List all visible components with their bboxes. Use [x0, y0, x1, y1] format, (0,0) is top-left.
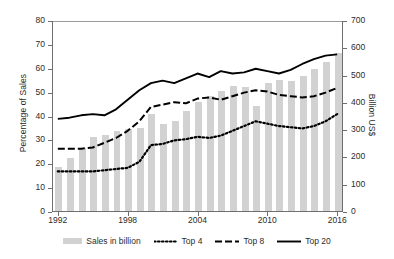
legend-label: Top 4	[182, 236, 203, 246]
y-tick-label-80: 80	[23, 15, 45, 25]
x-tick-mark-2016	[337, 212, 338, 216]
y-axis-title-right: Billion US$	[367, 45, 377, 185]
y2-tick-label-600: 600	[351, 42, 377, 52]
y-tick-label-60: 60	[23, 63, 45, 73]
x-tick-mark-1998	[128, 212, 129, 216]
y-tick-label-70: 70	[23, 39, 45, 49]
y-tick-mark-0	[48, 212, 52, 213]
legend-item-top-20: Top 20	[277, 236, 331, 246]
y2-tick-mark-400	[343, 103, 347, 104]
y2-tick-label-500: 500	[351, 70, 377, 80]
y2-tick-mark-300	[343, 130, 347, 131]
legend-label: Top 8	[243, 236, 264, 246]
legend-item-sales-in-billion: Sales in billion	[63, 236, 140, 246]
y2-tick-label-100: 100	[351, 179, 377, 189]
x-tick-label-1992: 1992	[38, 215, 78, 225]
y2-tick-mark-100	[343, 185, 347, 186]
legend-label: Sales in billion	[86, 236, 140, 246]
y2-tick-mark-600	[343, 48, 347, 49]
legend-swatch-solid-line-icon	[277, 238, 301, 245]
legend-item-top-4: Top 4	[154, 236, 203, 246]
line-top-20	[58, 54, 337, 118]
y2-tick-mark-500	[343, 76, 347, 77]
legend-swatch-dotted-line-icon	[154, 238, 178, 245]
x-tick-mark-2004	[198, 212, 199, 216]
x-tick-label-1998: 1998	[108, 215, 148, 225]
line-top-8	[58, 88, 337, 149]
y2-tick-label-400: 400	[351, 97, 377, 107]
y2-tick-mark-700	[343, 21, 347, 22]
y-tick-label-40: 40	[23, 111, 45, 121]
legend-item-top-8: Top 8	[215, 236, 264, 246]
y2-tick-mark-0	[343, 212, 347, 213]
legend-label: Top 20	[305, 236, 331, 246]
chart-figure: Percentage of Sales Billion US$ 01020304…	[0, 0, 394, 259]
y-tick-label-20: 20	[23, 158, 45, 168]
line-series	[52, 21, 343, 212]
y2-tick-label-300: 300	[351, 124, 377, 134]
x-tick-mark-1992	[58, 212, 59, 216]
x-tick-label-2010: 2010	[247, 215, 287, 225]
y-tick-label-30: 30	[23, 134, 45, 144]
y2-tick-label-700: 700	[351, 15, 377, 25]
y2-tick-mark-200	[343, 157, 347, 158]
legend-swatch-dashed-line-icon	[215, 238, 239, 245]
x-tick-label-2004: 2004	[178, 215, 218, 225]
legend-swatch-bar-icon	[63, 238, 82, 244]
x-tick-mark-2010	[267, 212, 268, 216]
y-tick-label-10: 10	[23, 182, 45, 192]
line-top-4	[58, 114, 337, 171]
y2-tick-label-200: 200	[351, 151, 377, 161]
chart-legend: Sales in billionTop 4Top 8Top 20	[0, 236, 394, 246]
y-tick-label-50: 50	[23, 87, 45, 97]
x-tick-label-2016: 2016	[317, 215, 357, 225]
